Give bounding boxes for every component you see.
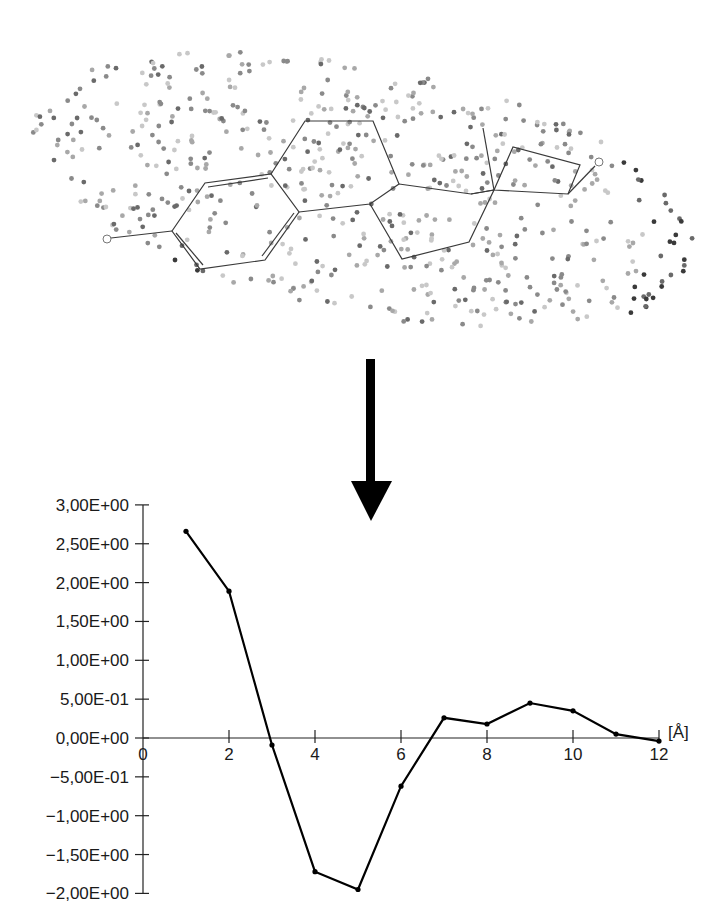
surface-point — [421, 163, 426, 168]
surface-point — [133, 183, 138, 188]
surface-point — [207, 109, 212, 114]
surface-point — [220, 273, 225, 278]
surface-point — [590, 181, 595, 186]
surface-point — [430, 110, 435, 115]
surface-point — [608, 220, 613, 225]
surface-point — [493, 200, 498, 205]
surface-point — [479, 153, 484, 158]
surface-point — [203, 166, 208, 171]
surface-point — [519, 216, 524, 221]
surface-point — [600, 278, 605, 283]
surface-point — [154, 163, 159, 168]
y-tick-label: −1,00E+00 — [46, 807, 129, 826]
surface-point — [245, 126, 250, 131]
surface-point — [71, 138, 76, 143]
surface-point — [383, 138, 388, 143]
surface-point — [316, 270, 321, 275]
surface-point — [51, 116, 56, 121]
surface-point — [411, 91, 416, 96]
surface-point — [312, 159, 317, 164]
surface-point — [317, 214, 322, 219]
surface-point — [456, 298, 461, 303]
surface-point — [440, 257, 445, 262]
molecular-surface-point-cloud — [31, 50, 695, 328]
surface-point — [91, 78, 96, 83]
surface-point — [632, 296, 637, 301]
surface-point — [411, 106, 416, 111]
surface-point — [431, 85, 436, 90]
y-tick-label: −5,00E-01 — [50, 768, 129, 787]
surface-point — [503, 288, 508, 293]
surface-point — [417, 101, 422, 106]
surface-point — [240, 254, 245, 259]
surface-point — [331, 216, 336, 221]
surface-point — [662, 193, 667, 198]
surface-point — [90, 68, 95, 73]
oxygen-atom-left — [103, 235, 111, 243]
surface-point — [453, 169, 458, 174]
surface-point — [329, 107, 334, 112]
surface-point — [605, 190, 610, 195]
y-tick-label: 2,50E+00 — [56, 535, 129, 554]
surface-point — [299, 181, 304, 186]
surface-point — [329, 273, 334, 278]
surface-point — [495, 149, 500, 154]
surface-point — [499, 244, 504, 249]
data-series-line — [186, 531, 659, 889]
surface-point — [594, 239, 599, 244]
surface-point — [293, 261, 298, 266]
surface-point — [346, 98, 351, 103]
surface-point — [364, 133, 369, 138]
surface-point — [412, 287, 417, 292]
surface-point — [450, 265, 455, 270]
surface-point — [529, 319, 534, 324]
surface-point — [395, 133, 400, 138]
surface-point — [504, 98, 509, 103]
y-axis-tick-labels: 3,00E+002,50E+002,00E+001,50E+001,00E+00… — [46, 496, 129, 904]
surface-point — [637, 198, 642, 203]
surface-point — [346, 146, 351, 151]
surface-point — [344, 106, 349, 111]
surface-point — [114, 66, 119, 71]
surface-point — [432, 178, 437, 183]
surface-point — [317, 147, 322, 152]
surface-point — [373, 103, 378, 108]
surface-point — [375, 253, 380, 258]
surface-point — [552, 281, 557, 286]
surface-point — [271, 280, 276, 285]
surface-point — [352, 161, 357, 166]
surface-point — [75, 116, 80, 121]
surface-point — [632, 285, 637, 290]
surface-point — [541, 129, 546, 134]
surface-point — [332, 301, 337, 306]
surface-point — [406, 172, 411, 177]
surface-point — [475, 309, 480, 314]
surface-point — [459, 169, 464, 174]
surface-point — [341, 141, 346, 146]
surface-point — [643, 304, 648, 309]
surface-point — [418, 80, 423, 85]
surface-point — [365, 114, 370, 119]
surface-point — [499, 261, 504, 266]
surface-point — [682, 257, 687, 262]
surface-point — [156, 124, 161, 129]
y-tick-label: 1,50E+00 — [56, 612, 129, 631]
figure: 3,00E+002,50E+002,00E+001,50E+001,00E+00… — [0, 0, 727, 923]
surface-point — [490, 297, 495, 302]
surface-point — [484, 226, 489, 231]
surface-point — [485, 248, 490, 253]
surface-point — [355, 210, 360, 215]
surface-point — [288, 289, 293, 294]
surface-point — [420, 319, 425, 324]
surface-point — [569, 146, 574, 151]
surface-point — [340, 221, 345, 226]
surface-point — [480, 186, 485, 191]
x-tick-label: 12 — [650, 745, 669, 764]
surface-point — [566, 296, 571, 301]
y-tick-label: 2,00E+00 — [56, 574, 129, 593]
surface-point — [405, 247, 410, 252]
surface-point — [627, 244, 632, 249]
surface-point — [355, 95, 360, 100]
surface-point — [482, 312, 487, 317]
surface-point — [428, 291, 433, 296]
